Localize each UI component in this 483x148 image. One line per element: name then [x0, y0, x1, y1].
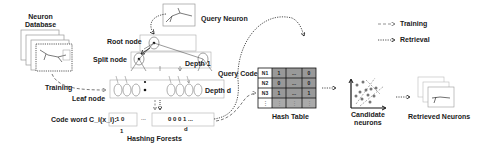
- hashing-forests-label: Hashing Forests: [127, 135, 182, 142]
- hash-cell: 0: [302, 80, 316, 86]
- hash-cell: 0: [272, 80, 286, 86]
- index-d-label: d: [184, 126, 188, 132]
- root-node-label: Root node: [107, 38, 142, 45]
- hash-table-title: Hash Table: [272, 113, 309, 120]
- training-label: Training: [45, 84, 72, 91]
- hash-cell: ⋮: [286, 100, 302, 106]
- candidate-line2: neurons: [351, 119, 385, 127]
- query-neuron-image: [163, 4, 195, 26]
- hash-cell: ⋮: [258, 100, 272, 106]
- neuron-database-label: Neuron Database: [25, 13, 56, 29]
- legend-retrieval-label: Retrieval: [400, 36, 430, 43]
- code-word-label: Code word C_i(x_i):: [51, 116, 117, 123]
- neuron-database-stack: [21, 30, 72, 71]
- depth-d-label: Depth d: [205, 87, 231, 94]
- query-code-label: Query Code: [218, 70, 258, 77]
- hash-cell: 1: [272, 90, 286, 96]
- hash-cell: ⋮: [272, 100, 286, 106]
- hash-cell: N3: [258, 90, 272, 96]
- depth-1-label: Depth 1: [185, 60, 211, 67]
- query-neuron-label: Query Neuron: [201, 15, 248, 22]
- code-ellipsis: ...: [141, 115, 146, 121]
- hash-cell: ...: [286, 70, 302, 76]
- retrieved-neurons-stack: [418, 77, 454, 107]
- retrieved-neurons-label: Retrieved Neurons: [408, 113, 470, 120]
- hash-cell: 0: [302, 70, 316, 76]
- hash-cell: N2: [258, 80, 272, 86]
- neuron-database-line2: Database: [25, 21, 56, 29]
- hash-cell: 1: [302, 90, 316, 96]
- hash-cell: ...: [286, 80, 302, 86]
- candidate-line1: Candidate: [351, 111, 385, 119]
- legend-training-label: Training: [400, 20, 427, 27]
- hash-cell: ⋮: [302, 100, 316, 106]
- leaf-node-label: Leaf node: [72, 95, 105, 102]
- index-1-label: 1: [120, 128, 123, 134]
- hash-cell: 1: [272, 70, 286, 76]
- code-box-d-value: 0 0 0 1 ...: [168, 116, 193, 122]
- neuron-database-line1: Neuron: [25, 13, 56, 21]
- candidate-scatter: [349, 78, 386, 110]
- code-box-1-value: 1 0: [116, 116, 124, 122]
- split-node-label: Split node: [93, 56, 127, 63]
- hash-cell: ...: [286, 90, 302, 96]
- candidate-neurons-label: Candidate neurons: [351, 111, 385, 127]
- hash-cell: N1: [258, 70, 272, 76]
